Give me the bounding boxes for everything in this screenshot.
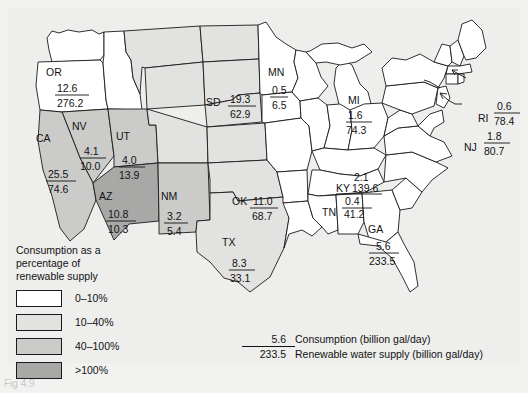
label-group-nj: NJ 1.8 80.7	[464, 130, 510, 157]
label-ut-consumption: 4.0	[122, 154, 137, 166]
label-nm-consumption: 3.2	[167, 210, 182, 222]
legend-swatch-40-100	[16, 338, 62, 355]
state-ks[interactable]	[207, 123, 267, 163]
value-key-consumption-number: 5.6	[242, 332, 295, 347]
label-az-consumption: 10.8	[108, 208, 129, 220]
label-nj-consumption: 1.8	[487, 130, 502, 142]
label-ga-abbr: GA	[368, 223, 383, 235]
label-ca-consumption: 25.5	[48, 168, 69, 180]
label-mi-consumption: 1.6	[348, 109, 363, 121]
label-tn-abbr: TN	[322, 206, 336, 218]
legend-swatch-0-10	[16, 290, 62, 307]
legend-label-10-40: 10–40%	[75, 316, 114, 328]
label-or-supply: 276.2	[57, 97, 83, 109]
label-tn-consumption: 0.4	[345, 195, 360, 207]
value-key: 5.6 Consumption (billion gal/day) 233.5 …	[242, 332, 483, 361]
label-ky-supply: 139.6	[352, 182, 378, 194]
label-nv-abbr: NV	[72, 120, 87, 132]
label-mn-consumption: 0.5	[272, 84, 287, 96]
label-nm-supply: 5.4	[167, 225, 182, 237]
value-key-supply-number: 233.5	[242, 347, 295, 361]
label-nm-abbr: NM	[161, 190, 177, 202]
state-vt[interactable]	[434, 44, 452, 66]
legend-label-0-10: 0–10%	[75, 292, 108, 304]
legend-label-40-100: 40–100%	[75, 340, 119, 352]
label-mi-abbr: MI	[348, 94, 360, 106]
label-tn-supply: 41.2	[344, 208, 365, 220]
label-sd-supply: 62.9	[230, 108, 251, 120]
label-mn-abbr: MN	[268, 66, 284, 78]
figure-container: OR 12.6 276.2 CA 25.5 74.6 NV 4.1 10.0 U…	[0, 0, 528, 393]
label-or-abbr: OR	[46, 66, 62, 78]
legend-row-0-10[interactable]: 0–10%	[16, 288, 196, 308]
legend-title-line2: percentage of	[16, 257, 196, 270]
legend-title-line1: Consumption as a	[16, 244, 196, 257]
value-key-consumption-label: Consumption (billion gal/day)	[295, 332, 430, 346]
legend-title: Consumption as a percentage of renewable…	[16, 244, 196, 283]
state-pa[interactable]	[382, 82, 438, 114]
legend-row-over-100[interactable]: >100%	[16, 360, 196, 380]
state-nd[interactable]	[200, 25, 259, 62]
legend-row-10-40[interactable]: 10–40%	[16, 312, 196, 332]
state-wa[interactable]	[47, 30, 104, 62]
legend-title-line3: renewable supply	[16, 270, 196, 283]
label-ga-supply: 233.5	[369, 255, 395, 267]
label-nj-supply: 80.7	[484, 145, 505, 157]
label-sd-consumption: 19.3	[230, 93, 251, 105]
value-key-supply-label: Renewable water supply (billion gal/day)	[295, 347, 483, 361]
label-tx-consumption: 8.3	[232, 257, 247, 269]
state-mo[interactable]	[265, 118, 312, 172]
legend-label-over-100: >100%	[75, 364, 108, 376]
label-ut-supply: 13.9	[119, 169, 140, 181]
label-ri-consumption: 0.6	[497, 100, 512, 112]
value-key-row-consumption: 5.6 Consumption (billion gal/day)	[242, 332, 483, 347]
label-nv-consumption: 4.1	[84, 145, 99, 157]
label-or-consumption: 12.6	[57, 82, 78, 94]
label-tx-supply: 33.1	[230, 272, 251, 284]
label-ri-supply: 78.4	[494, 115, 515, 127]
legend-swatch-over-100	[16, 362, 62, 379]
label-mn-supply: 6.5	[272, 99, 287, 111]
label-ut-abbr: UT	[116, 130, 131, 142]
label-ok-consumption: 11.0	[253, 195, 273, 207]
legend-row-40-100[interactable]: 40–100%	[16, 336, 196, 356]
label-nv-supply: 10.0	[80, 160, 101, 172]
label-ri-abbr: RI	[478, 112, 489, 124]
label-ok-abbr: OK	[232, 195, 247, 207]
label-nj-abbr: NJ	[464, 141, 477, 153]
label-tx-abbr: TX	[222, 236, 235, 248]
label-az-abbr: AZ	[99, 190, 113, 202]
label-group-ri: RI 0.6 78.4	[478, 100, 520, 127]
map-legend: Consumption as a percentage of renewable…	[16, 244, 196, 384]
state-ct[interactable]	[446, 74, 458, 84]
label-ok-supply: 68.7	[252, 210, 273, 222]
label-ga-consumption: 5.6	[376, 240, 391, 252]
label-ca-abbr: CA	[36, 132, 51, 144]
value-key-row-supply: 233.5 Renewable water supply (billion ga…	[242, 347, 483, 361]
label-ky-abbr: KY	[336, 182, 350, 194]
state-nj[interactable]	[436, 86, 450, 108]
state-mi-upper[interactable]	[306, 43, 372, 65]
label-mi-supply: 74.3	[346, 124, 367, 136]
label-ca-supply: 74.6	[48, 183, 69, 195]
state-wy[interactable]	[145, 62, 205, 109]
legend-swatch-10-40	[16, 314, 62, 331]
label-sd-abbr: SD	[206, 96, 221, 108]
figure-caption: Fig 4.9	[4, 378, 35, 389]
label-az-supply: 10.3	[108, 223, 129, 235]
